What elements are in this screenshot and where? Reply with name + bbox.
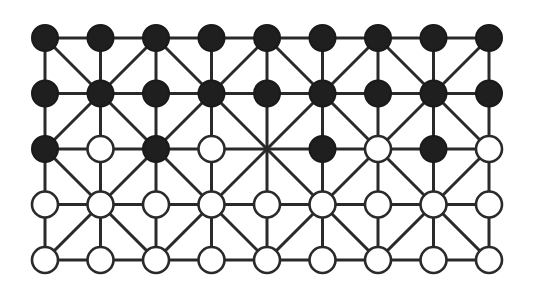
white-piece[interactable] [143, 247, 169, 273]
black-piece[interactable] [199, 81, 225, 107]
game-board [0, 0, 534, 294]
black-piece[interactable] [88, 81, 114, 107]
black-piece[interactable] [32, 136, 58, 162]
white-piece[interactable] [254, 192, 280, 218]
white-piece[interactable] [32, 192, 58, 218]
white-piece[interactable] [365, 247, 391, 273]
black-piece[interactable] [88, 25, 114, 51]
black-piece[interactable] [254, 25, 280, 51]
white-piece[interactable] [254, 247, 280, 273]
black-piece[interactable] [421, 25, 447, 51]
black-piece[interactable] [310, 25, 336, 51]
black-piece[interactable] [143, 25, 169, 51]
black-piece[interactable] [199, 25, 225, 51]
black-piece[interactable] [32, 81, 58, 107]
black-piece[interactable] [143, 81, 169, 107]
white-piece[interactable] [88, 192, 114, 218]
black-piece[interactable] [421, 136, 447, 162]
white-piece[interactable] [365, 136, 391, 162]
white-piece[interactable] [143, 192, 169, 218]
black-piece[interactable] [254, 81, 280, 107]
black-piece[interactable] [365, 81, 391, 107]
white-piece[interactable] [199, 136, 225, 162]
black-piece[interactable] [476, 25, 502, 51]
white-piece[interactable] [88, 136, 114, 162]
white-piece[interactable] [365, 192, 391, 218]
white-piece[interactable] [88, 247, 114, 273]
white-piece[interactable] [199, 192, 225, 218]
white-piece[interactable] [310, 192, 336, 218]
black-piece[interactable] [143, 136, 169, 162]
white-piece[interactable] [421, 247, 447, 273]
white-piece[interactable] [310, 247, 336, 273]
white-piece[interactable] [32, 247, 58, 273]
white-piece[interactable] [199, 247, 225, 273]
black-piece[interactable] [421, 81, 447, 107]
white-piece[interactable] [476, 192, 502, 218]
white-piece[interactable] [421, 192, 447, 218]
white-piece[interactable] [476, 136, 502, 162]
white-piece[interactable] [476, 247, 502, 273]
empty-point[interactable] [254, 136, 280, 162]
black-piece[interactable] [476, 81, 502, 107]
black-piece[interactable] [32, 25, 58, 51]
black-piece[interactable] [365, 25, 391, 51]
black-piece[interactable] [310, 136, 336, 162]
black-piece[interactable] [310, 81, 336, 107]
